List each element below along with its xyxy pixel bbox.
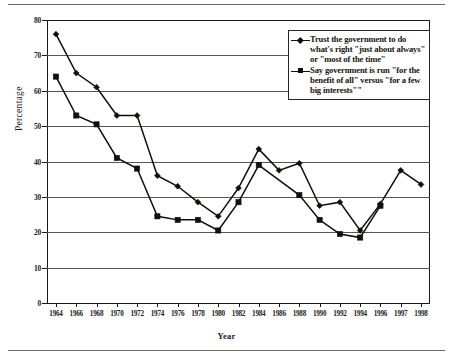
data-point-diamond-1972 — [134, 113, 140, 119]
data-point-square-1980 — [216, 228, 221, 233]
legend-label-1: Trust the government to do what's right … — [310, 34, 427, 65]
line-chart-figure: Percentage Year 01020304050607080 196419… — [0, 0, 453, 360]
y-tick-label-50: 50 — [34, 122, 41, 131]
data-point-square-1996 — [378, 203, 383, 208]
x-tick-label-1984: 1984 — [252, 310, 265, 318]
x-tick-label-1997: 1997 — [394, 310, 407, 318]
data-point-square-1968 — [94, 122, 99, 127]
legend-entry-2[interactable]: Say government is run "for the benefit o… — [291, 65, 427, 96]
y-tick-label-10: 10 — [34, 263, 41, 272]
data-point-square-1974 — [155, 214, 160, 219]
data-point-square-1976 — [175, 217, 180, 222]
x-tick-label-1988: 1988 — [293, 310, 306, 318]
data-point-square-1966 — [74, 113, 79, 118]
data-point-square-1970 — [114, 155, 119, 160]
x-tick-label-1996: 1996 — [374, 310, 387, 318]
data-point-square-1972 — [135, 166, 140, 171]
x-tick-label-1978: 1978 — [191, 310, 204, 318]
legend-entry-1[interactable]: Trust the government to do what's right … — [291, 34, 427, 65]
data-point-diamond-1974 — [154, 173, 160, 179]
data-point-diamond-1964 — [53, 31, 59, 37]
x-tick-label-1976: 1976 — [171, 310, 184, 318]
data-point-square-1982 — [236, 200, 241, 205]
x-tick-label-1968: 1968 — [90, 310, 103, 318]
data-point-square-1992 — [337, 231, 342, 236]
square-marker-icon — [291, 66, 310, 77]
data-point-square-1964 — [53, 74, 58, 79]
y-axis-title: Percentage — [14, 86, 24, 131]
data-point-diamond-1990 — [317, 203, 323, 209]
diamond-marker-icon — [291, 35, 310, 46]
x-tick-label-1966: 1966 — [70, 310, 83, 318]
x-tick-label-1994: 1994 — [353, 310, 366, 318]
y-tick-label-0: 0 — [37, 299, 41, 308]
x-tick-label-1990: 1990 — [313, 310, 326, 318]
y-tick-label-30: 30 — [34, 192, 41, 201]
data-point-square-1994 — [358, 235, 363, 240]
data-point-square-1984 — [256, 162, 261, 167]
y-tick-label-20: 20 — [34, 228, 41, 237]
y-tick-label-60: 60 — [34, 86, 41, 95]
x-tick-label-1992: 1992 — [333, 310, 346, 318]
x-tick-label-1998: 1998 — [414, 310, 427, 318]
x-tick-label-1986: 1986 — [272, 310, 285, 318]
y-tick-label-70: 70 — [34, 51, 41, 60]
x-tick-label-1980: 1980 — [212, 310, 225, 318]
x-tick-label-1970: 1970 — [110, 310, 123, 318]
x-tick-label-1964: 1964 — [49, 310, 62, 318]
data-point-diamond-1988 — [296, 160, 302, 166]
x-tick-label-1974: 1974 — [151, 310, 164, 318]
y-tick-label-80: 80 — [34, 16, 41, 25]
x-tick-label-1972: 1972 — [130, 310, 143, 318]
data-point-square-1978 — [195, 217, 200, 222]
y-tick-label-40: 40 — [34, 157, 41, 166]
data-point-square-1988 — [297, 193, 302, 198]
legend-label-2: Say government is run "for the benefit o… — [310, 65, 427, 96]
data-point-square-1990 — [317, 217, 322, 222]
chart-legend: Trust the government to do what's right … — [288, 30, 430, 100]
x-tick-label-1982: 1982 — [232, 310, 245, 318]
x-axis-title: Year — [0, 331, 453, 341]
